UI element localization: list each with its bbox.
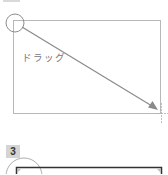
start-point-circle-icon xyxy=(6,14,24,32)
step-badge: 3 xyxy=(6,145,20,158)
drag-arrow-icon xyxy=(22,27,158,110)
drag-instruction-label: ドラッグ xyxy=(22,50,66,64)
start-point-circle-icon xyxy=(6,158,42,174)
corner-handle-icon xyxy=(17,169,21,173)
corner-handle-icon xyxy=(157,169,161,173)
crosshair-cursor-icon xyxy=(155,103,168,124)
illustration-canvas xyxy=(0,0,168,174)
selected-rectangle xyxy=(17,168,162,175)
